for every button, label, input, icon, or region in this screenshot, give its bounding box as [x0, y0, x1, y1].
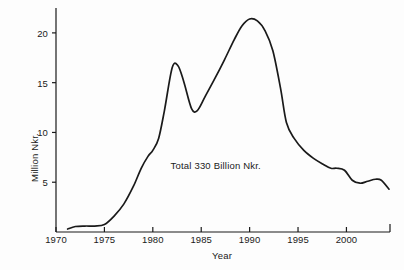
y-tick-label: 15 — [26, 77, 48, 88]
data-series-line — [68, 19, 389, 229]
x-tick-label: 1985 — [190, 234, 212, 245]
x-tick-label: 1970 — [45, 234, 67, 245]
y-axis-title: Million Nkr. — [29, 118, 40, 198]
x-tick-label: 1990 — [239, 234, 261, 245]
x-tick-label: 2000 — [336, 234, 358, 245]
line-chart-figure: 5101520 1970197519801985199019952000 Mil… — [0, 0, 404, 270]
chart-annotation-total: Total 330 Billion Nkr. — [170, 160, 260, 171]
x-tick-marks — [56, 227, 346, 232]
x-axis-title: Year — [212, 250, 232, 261]
axis-lines — [56, 8, 390, 232]
x-tick-label: 1995 — [287, 234, 309, 245]
x-tick-label: 1980 — [142, 234, 164, 245]
y-tick-label: 20 — [26, 27, 48, 38]
plot-area — [0, 0, 404, 270]
x-tick-label: 1975 — [94, 234, 116, 245]
